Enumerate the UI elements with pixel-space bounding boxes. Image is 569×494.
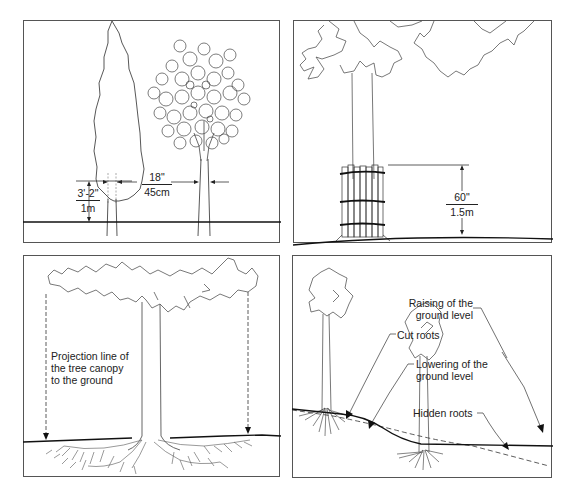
panel-trunk-measurement: 3'-2" 1m 18" 45cm — [23, 20, 280, 243]
tree-canopy — [48, 258, 258, 312]
broadleaf-tree-trunk — [198, 159, 210, 236]
height-metric: 1m — [76, 201, 100, 214]
wooden-plank-guard — [336, 165, 390, 241]
panel-ground-level-changes: Raising of the ground level Cut roots Lo… — [292, 255, 552, 478]
columnar-tree-trunk — [107, 199, 117, 236]
panel-trunk-protection: 60" 1.5m — [293, 20, 552, 243]
tree-trunk — [128, 302, 180, 450]
columnar-tree-canopy — [94, 21, 144, 201]
hidden-roots-label: Hidden roots — [413, 407, 473, 419]
panel-1-drawing — [24, 21, 281, 244]
broadleaf-tree-canopy — [148, 40, 250, 149]
cut-roots-label: Cut roots — [397, 329, 440, 341]
height-label: 3'-2" 1m — [76, 187, 100, 214]
raising-ground-level-label: Raising of the ground level — [397, 297, 473, 321]
protection-height-metric: 1.5m — [446, 205, 478, 218]
projection-line-label: Projection line of the tree canopy to th… — [51, 350, 129, 386]
ground-line — [293, 237, 553, 245]
tree-trunk — [352, 73, 374, 179]
protection-height-label: 60" 1.5m — [446, 191, 478, 218]
lowering-ground-level-label: Lowering of the ground level — [416, 358, 488, 382]
height-imperial: 3'-2" — [76, 187, 100, 201]
protection-height-imperial: 60" — [446, 191, 478, 205]
panel-2-drawing — [294, 21, 553, 244]
tree-canopy — [300, 21, 534, 79]
diameter-metric: 45cm — [142, 185, 172, 198]
diameter-imperial: 18" — [142, 171, 172, 185]
root-system — [46, 440, 252, 474]
panel-canopy-projection: Projection line of the tree canopy to th… — [23, 255, 280, 477]
diameter-label: 18" 45cm — [142, 171, 172, 198]
ground-line — [23, 435, 281, 442]
